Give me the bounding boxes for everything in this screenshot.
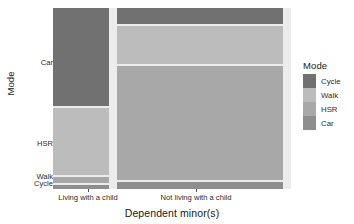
legend-item-walk[interactable]: Walk [300,88,354,102]
legend: Mode CycleWalkHSRCar [300,60,354,130]
legend-title: Mode [303,60,354,71]
legend-color-swatch [303,74,316,88]
mosaic-tile [53,8,109,106]
legend-color-swatch [303,88,316,102]
mosaic-tile [117,66,283,181]
y-axis-tick-car: Car [14,58,58,67]
mosaic-plot: Mode CarHSRWalkCycle Living with a child… [0,0,354,224]
x-axis-tick-label: Not living with a child [136,193,256,202]
y-axis-tick-label: Cycle [34,179,53,188]
x-axis-tick-mark [196,189,197,192]
y-axis-tick-hsr: HSR [14,139,58,148]
x-axis-title: Dependent minor(s) [53,207,291,219]
y-axis-tick-label: Car [41,58,53,67]
mosaic-tile [117,182,283,189]
legend-item-label: Cycle [321,77,341,86]
legend-item-label: Walk [321,91,338,100]
legend-item-cycle[interactable]: Cycle [300,74,354,88]
y-axis-tick-label: HSR [37,139,53,148]
x-axis-tick-mark [88,189,89,192]
legend-item-car[interactable]: Car [300,116,354,130]
y-axis-tick-cycle: Cycle [14,179,58,188]
plot-panel [53,8,291,189]
legend-color-swatch [303,116,316,130]
legend-item-label: Car [321,119,334,128]
mosaic-tile [53,108,109,176]
mosaic-tile [53,177,109,183]
legend-color-swatch [303,102,316,116]
mosaic-tile [53,185,109,189]
legend-item-hsr[interactable]: HSR [300,102,354,116]
mosaic-tile [117,8,283,24]
x-axis-tick-label: Living with a child [28,193,148,202]
legend-items: CycleWalkHSRCar [300,74,354,130]
mosaic-tile [117,26,283,63]
legend-item-label: HSR [321,105,337,114]
